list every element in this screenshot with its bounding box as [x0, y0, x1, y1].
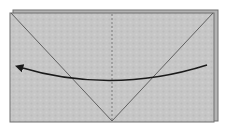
origami-diagram: [0, 0, 227, 130]
